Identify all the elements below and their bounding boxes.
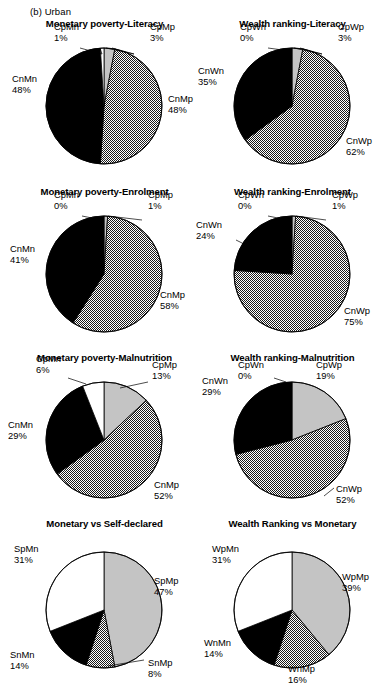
- leader-line-CnWp: [324, 488, 334, 496]
- panel-label: (b) Urban: [30, 6, 71, 17]
- pie-chart-1: Monetary poverty-LiteracyCpMp3%CnMp48%Cn…: [8, 18, 201, 190]
- slice-value-SnMn: 14%: [10, 660, 29, 671]
- pie-svg: CpMp1%CnMp58%CnMn41%CpMn0%: [8, 186, 201, 358]
- slice-label-CnWp: CnWp: [344, 305, 370, 316]
- slice-label-SpMn: SpMn: [14, 543, 39, 554]
- slice-label-CpWn: CpWn: [240, 21, 266, 32]
- pie-chart-2: Wealth ranking-LiteracyCpWp3%CnWp62%CnWn…: [196, 18, 387, 190]
- slice-value-CpWp: 1%: [332, 200, 346, 211]
- slice-value-CpWn: 0%: [240, 32, 254, 43]
- slice-value-CpMp: 3%: [150, 32, 164, 43]
- slice-value-CpWn: 0%: [238, 370, 252, 381]
- slice-value-CnWp: 52%: [336, 494, 355, 505]
- slice-label-CnMp: CnMp: [160, 289, 185, 300]
- slice-value-SpMp: 47%: [154, 586, 173, 597]
- slice-label-WnMn: WnMn: [204, 637, 231, 648]
- pie-svg: CpMp13%CnMp52%CnMn29%CpMn6%: [8, 352, 201, 524]
- pie-slice-CnMn: [46, 48, 104, 164]
- slice-label-CpMn: CpMn: [54, 21, 79, 32]
- slice-value-CnWn: 24%: [196, 230, 215, 241]
- slice-value-CnMn: 29%: [8, 430, 27, 441]
- slice-value-CnMp: 48%: [168, 104, 187, 115]
- slice-label-CnMp: CnMp: [154, 479, 179, 490]
- slice-label-CnMp: CnMp: [168, 93, 193, 104]
- pie-svg: CpWp3%CnWp62%CnWn35%CpWn0%: [196, 18, 387, 190]
- pie-chart-6: Wealth ranking-MalnutritionCpWp19%CnWp52…: [196, 352, 387, 524]
- slice-label-CpWn: CpWn: [238, 189, 264, 200]
- slice-label-WnMp: WnMp: [288, 663, 315, 674]
- pie-svg: CpWp19%CnWp52%CnWn29%CpWn0%: [196, 352, 387, 524]
- slice-value-WnMp: 16%: [288, 674, 307, 685]
- slice-value-CpWn: 0%: [238, 200, 252, 211]
- slice-label-CpMn: CpMn: [54, 189, 79, 200]
- slice-label-CpWn: CpWn: [238, 359, 264, 370]
- slice-value-CnMn: 41%: [10, 254, 29, 265]
- slice-label-CpMp: CpMp: [148, 189, 173, 200]
- figure-root: (b) Urban Monetary poverty-LiteracyCpMp3…: [0, 0, 387, 692]
- slice-value-CnWn: 35%: [198, 76, 217, 87]
- slice-label-CnWn: CnWn: [198, 65, 224, 76]
- pie-chart-3: Monetary poverty-EnrolmentCpMp1%CnMp58%C…: [8, 186, 201, 358]
- slice-value-CnMn: 48%: [12, 84, 31, 95]
- slice-label-SpMp: SpMp: [154, 575, 179, 586]
- slice-value-CnWn: 29%: [202, 386, 221, 397]
- slice-label-CnMn: CnMn: [12, 73, 37, 84]
- slice-value-CpMp: 13%: [152, 370, 171, 381]
- slice-label-SnMp: SnMp: [148, 657, 173, 668]
- slice-value-SpMn: 31%: [14, 554, 33, 565]
- slice-value-CnMp: 52%: [154, 490, 173, 501]
- pie-svg: WpMp39%WnMp16%WnMn14%WpMn31%: [196, 518, 387, 690]
- slice-label-CpWp: CpWp: [338, 21, 364, 32]
- slice-value-CnWp: 62%: [346, 146, 365, 157]
- pie-chart-4: Wealth ranking-EnrolmentCpWp1%CnWp75%CnW…: [196, 186, 387, 358]
- pie-svg: CpWp1%CnWp75%CnWn24%CpWn0%: [196, 186, 387, 358]
- pie-chart-5: Monetary poverty-MalnutritionCpMp13%CnMp…: [8, 352, 201, 524]
- slice-value-CnWp: 75%: [344, 316, 363, 327]
- slice-value-CnMp: 58%: [160, 300, 179, 311]
- slice-value-CpWp: 3%: [338, 32, 352, 43]
- leader-line-CpWn: [274, 378, 286, 382]
- slice-label-CpMn: CpMn: [36, 353, 61, 364]
- pie-slice-SpMp: [104, 552, 162, 667]
- slice-label-CnWp: CnWp: [336, 483, 362, 494]
- slice-value-CpWp: 19%: [316, 370, 335, 381]
- slice-label-CpMp: CpMp: [152, 359, 177, 370]
- slice-label-CnWn: CnWn: [202, 375, 228, 386]
- slice-label-CnWn: CnWn: [196, 219, 222, 230]
- pie-svg: CpMp3%CnMp48%CnMn48%CpMn1%: [8, 18, 201, 190]
- slice-value-WpMn: 31%: [212, 554, 231, 565]
- slice-label-WpMp: WpMp: [342, 571, 369, 582]
- leader-line-CpMn: [68, 378, 86, 384]
- slice-label-SnMn: SnMn: [10, 649, 35, 660]
- slice-value-WnMn: 14%: [204, 648, 223, 659]
- slice-label-CnWp: CnWp: [346, 135, 372, 146]
- slice-value-SnMp: 8%: [148, 668, 162, 679]
- slice-label-CpWp: CpWp: [316, 359, 342, 370]
- pie-chart-8: Wealth Ranking vs MonetaryWpMp39%WnMp16%…: [196, 518, 387, 690]
- pie-slice-CnWn: [234, 216, 292, 274]
- slice-value-CpMn: 6%: [36, 364, 50, 375]
- slice-label-CnMn: CnMn: [8, 419, 33, 430]
- slice-value-CpMn: 0%: [54, 200, 68, 211]
- slice-value-WpMp: 39%: [342, 582, 361, 593]
- slice-label-CpWp: CpWp: [332, 189, 358, 200]
- pie-svg: SpMp47%SnMp8%SnMn14%SpMn31%: [8, 518, 201, 690]
- slice-label-CpMp: CpMp: [150, 21, 175, 32]
- pie-chart-7: Monetary vs Self-declaredSpMp47%SnMp8%Sn…: [8, 518, 201, 690]
- slice-label-CnMn: CnMn: [10, 243, 35, 254]
- slice-value-CpMp: 1%: [148, 200, 162, 211]
- slice-label-WpMn: WpMn: [212, 543, 239, 554]
- slice-value-CpMn: 1%: [54, 32, 68, 43]
